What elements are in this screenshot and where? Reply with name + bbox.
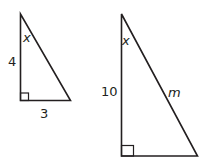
triangles-diagram: x 4 3 x 10 m: [0, 0, 208, 163]
small-triangle: x 4 3: [8, 14, 71, 121]
small-vertical-side-label: 4: [8, 54, 16, 69]
small-triangle-outline: [21, 14, 71, 101]
large-triangle: x 10 m: [101, 14, 198, 156]
small-horizontal-side-label: 3: [40, 106, 48, 121]
small-right-angle-marker: [21, 93, 29, 101]
large-vertical-side-label: 10: [101, 84, 118, 99]
small-angle-label: x: [22, 30, 31, 45]
large-hypotenuse-label: m: [168, 85, 181, 100]
large-angle-label: x: [121, 33, 130, 48]
large-triangle-outline: [122, 14, 198, 156]
large-right-angle-marker: [122, 146, 134, 157]
